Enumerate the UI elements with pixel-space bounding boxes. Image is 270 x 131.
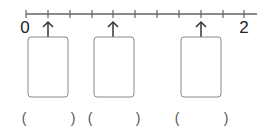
paren-open-1: ( (22, 111, 27, 125)
paren-close-2: ) (136, 111, 141, 125)
start-label: 0 (20, 19, 29, 36)
end-label: 2 (239, 19, 248, 36)
paren-close-1: ) (71, 111, 76, 125)
arrow-icon-1 (43, 22, 53, 37)
answer-box-2[interactable] (94, 37, 134, 97)
arrow-icon-2 (108, 22, 118, 37)
arrow-icon-3 (196, 22, 206, 37)
paren-open-3: ( (175, 111, 180, 125)
answer-box-3[interactable] (181, 37, 221, 97)
paren-close-3: ) (224, 111, 229, 125)
answer-box-1[interactable] (28, 37, 68, 97)
paren-open-2: ( (88, 111, 93, 125)
number-line-diagram: 0 2 ( ) ( ) ( ) (0, 0, 270, 131)
